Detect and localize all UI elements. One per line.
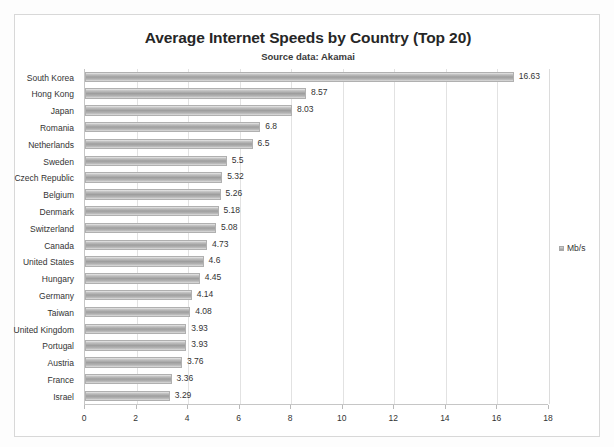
bar-row: 4.45 bbox=[85, 270, 549, 287]
bar-value-label: 6.8 bbox=[265, 121, 277, 131]
axis-tick bbox=[290, 405, 291, 409]
axis-tick bbox=[342, 405, 343, 409]
axis-tick bbox=[136, 405, 137, 409]
bar-value-label: 5.32 bbox=[227, 171, 244, 181]
category-label: Portugal bbox=[42, 341, 74, 351]
category-label: Hungary bbox=[42, 274, 74, 284]
bar[interactable] bbox=[85, 206, 219, 216]
bar[interactable] bbox=[85, 139, 253, 149]
category-label: Israel bbox=[53, 392, 74, 402]
bar-value-label: 5.5 bbox=[232, 155, 244, 165]
chart-title: Average Internet Speeds by Country (Top … bbox=[15, 29, 601, 47]
bar-row: 4.14 bbox=[85, 287, 549, 304]
chart-frame: Average Internet Speeds by Country (Top … bbox=[14, 14, 600, 437]
axis-tick bbox=[84, 405, 85, 409]
bar-row: 5.5 bbox=[85, 153, 549, 170]
bar-value-label: 3.93 bbox=[191, 323, 208, 333]
bar-value-label: 4.73 bbox=[212, 239, 229, 249]
bar-value-label: 3.36 bbox=[177, 373, 194, 383]
axis-tick-label: 0 bbox=[82, 413, 87, 423]
gridline bbox=[549, 69, 550, 404]
bar-row: 8.57 bbox=[85, 85, 549, 102]
axis-tick bbox=[187, 405, 188, 409]
bar[interactable] bbox=[85, 391, 170, 401]
plot-area: 16.638.578.036.86.55.55.325.265.185.084.… bbox=[84, 69, 548, 405]
bar[interactable] bbox=[85, 357, 182, 367]
bar[interactable] bbox=[85, 240, 207, 250]
bar-row: 4.6 bbox=[85, 253, 549, 270]
bar-value-label: 3.29 bbox=[175, 390, 192, 400]
category-label: Sweden bbox=[43, 157, 74, 167]
bar[interactable] bbox=[85, 273, 200, 283]
bar[interactable] bbox=[85, 374, 172, 384]
axis-tick-label: 10 bbox=[337, 413, 346, 423]
bar-value-label: 8.03 bbox=[297, 104, 314, 114]
chart-subtitle: Source data: Akamai bbox=[15, 51, 601, 62]
bar-row: 3.93 bbox=[85, 337, 549, 354]
bar-row: 8.03 bbox=[85, 102, 549, 119]
bar-value-label: 3.76 bbox=[187, 356, 204, 366]
axis-tick-label: 2 bbox=[133, 413, 138, 423]
bar-row: 3.76 bbox=[85, 354, 549, 371]
axis-tick bbox=[393, 405, 394, 409]
bar-row: 5.08 bbox=[85, 220, 549, 237]
category-label: Germany bbox=[39, 291, 74, 301]
bar[interactable] bbox=[85, 122, 260, 132]
axis-tick-label: 16 bbox=[492, 413, 501, 423]
bar-row: 3.29 bbox=[85, 388, 549, 405]
bar[interactable] bbox=[85, 88, 306, 98]
value-axis: 024681012141618 bbox=[84, 405, 548, 431]
axis-tick-label: 4 bbox=[185, 413, 190, 423]
bar[interactable] bbox=[85, 324, 186, 334]
bar-value-label: 8.57 bbox=[311, 87, 328, 97]
axis-tick bbox=[445, 405, 446, 409]
bar-row: 3.36 bbox=[85, 371, 549, 388]
bar-row: 3.93 bbox=[85, 321, 549, 338]
bar-row: 4.08 bbox=[85, 304, 549, 321]
axis-tick bbox=[496, 405, 497, 409]
axis-tick bbox=[239, 405, 240, 409]
category-label: Taiwan bbox=[48, 308, 74, 318]
bar[interactable] bbox=[85, 307, 190, 317]
bar[interactable] bbox=[85, 223, 216, 233]
bar[interactable] bbox=[85, 290, 192, 300]
legend-swatch-icon bbox=[559, 246, 564, 251]
bar[interactable] bbox=[85, 105, 292, 115]
axis-tick-label: 6 bbox=[236, 413, 241, 423]
category-label: United Kingdom bbox=[14, 325, 74, 335]
category-label: Netherlands bbox=[28, 140, 74, 150]
bar-value-label: 16.63 bbox=[519, 71, 540, 81]
axis-tick bbox=[548, 405, 549, 409]
bar[interactable] bbox=[85, 156, 227, 166]
bar[interactable] bbox=[85, 72, 514, 82]
bar-value-label: 5.18 bbox=[224, 205, 241, 215]
category-label: Czech Republic bbox=[14, 173, 74, 183]
bar-row: 6.8 bbox=[85, 119, 549, 136]
category-label: South Korea bbox=[27, 73, 74, 83]
bar-value-label: 4.08 bbox=[195, 306, 212, 316]
category-label: United States bbox=[23, 257, 74, 267]
category-label: Canada bbox=[44, 241, 74, 251]
bar-value-label: 5.26 bbox=[226, 188, 243, 198]
axis-tick-label: 14 bbox=[440, 413, 449, 423]
bar-value-label: 4.45 bbox=[205, 272, 222, 282]
axis-tick-label: 12 bbox=[389, 413, 398, 423]
bar-row: 5.18 bbox=[85, 203, 549, 220]
bar-value-label: 5.08 bbox=[221, 222, 238, 232]
category-label: Switzerland bbox=[30, 224, 74, 234]
category-label: Hong Kong bbox=[31, 89, 74, 99]
bar[interactable] bbox=[85, 189, 221, 199]
bar-row: 5.32 bbox=[85, 169, 549, 186]
legend-label: Mb/s bbox=[567, 243, 585, 253]
bar[interactable] bbox=[85, 340, 186, 350]
category-label: Belgium bbox=[43, 190, 74, 200]
bar[interactable] bbox=[85, 172, 222, 182]
bar-row: 5.26 bbox=[85, 186, 549, 203]
bar-row: 4.73 bbox=[85, 237, 549, 254]
category-label: Japan bbox=[51, 106, 74, 116]
bar[interactable] bbox=[85, 256, 204, 266]
category-label: France bbox=[48, 375, 74, 385]
bar-row: 16.63 bbox=[85, 69, 549, 86]
bar-value-label: 4.14 bbox=[197, 289, 214, 299]
bar-value-label: 6.5 bbox=[258, 138, 270, 148]
